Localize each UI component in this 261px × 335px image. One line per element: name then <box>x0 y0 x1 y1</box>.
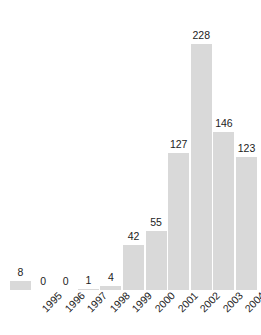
plot-area: 800144255127228146123 <box>0 0 261 290</box>
bar-1995 <box>10 281 31 290</box>
bar-group-1996: 0 <box>33 0 54 290</box>
x-axis-tick-labels: 1995199619971998199920002001200220032004… <box>0 290 261 335</box>
bar-group-1999: 4 <box>100 0 121 290</box>
tick-label-1995: 1995 <box>40 290 64 314</box>
bar-chart: 800144255127228146123 199519961997199819… <box>0 0 261 335</box>
bar-group-2004: 146 <box>213 0 234 290</box>
bar-value-label-1999: 4 <box>108 272 114 283</box>
bar-2003 <box>191 44 212 290</box>
bar-group-2002: 127 <box>168 0 189 290</box>
tick-label-2003: 2003 <box>221 290 245 314</box>
bar-group-1997: 0 <box>55 0 76 290</box>
bar-2000 <box>123 245 144 290</box>
bar-value-label-2004: 146 <box>215 118 233 129</box>
bar-group-1998: 1 <box>78 0 99 290</box>
bar-2002 <box>168 153 189 290</box>
bar-value-label-1997: 0 <box>63 276 69 287</box>
bar-value-label-1996: 0 <box>40 276 46 287</box>
tick-label-1999: 1999 <box>130 290 154 314</box>
bar-group-1995: 8 <box>10 0 31 290</box>
bar-2001 <box>146 231 167 290</box>
bar-value-label-1995: 8 <box>18 267 24 278</box>
bar-group-2005: 123 <box>236 0 257 290</box>
bar-value-label-2001: 55 <box>150 217 162 228</box>
bar-2005 <box>236 157 257 290</box>
bar-value-label-2002: 127 <box>170 139 188 150</box>
bar-group-2000: 42 <box>123 0 144 290</box>
tick-label-2002: 2002 <box>198 290 222 314</box>
bar-group-2003: 228 <box>191 0 212 290</box>
tick-label-2000: 2000 <box>153 290 177 314</box>
tick-label-1998: 1998 <box>108 290 132 314</box>
tick-label-1996: 1996 <box>62 290 86 314</box>
bar-value-label-2000: 42 <box>128 231 140 242</box>
bar-value-label-1998: 1 <box>85 275 91 286</box>
bar-2004 <box>213 132 234 290</box>
tick-label-2004: 2004 <box>243 290 261 314</box>
bar-value-label-2005: 123 <box>238 143 256 154</box>
bar-value-label-2003: 228 <box>193 30 211 41</box>
tick-label-2001: 2001 <box>175 290 199 314</box>
tick-label-1997: 1997 <box>85 290 109 314</box>
bar-group-2001: 55 <box>146 0 167 290</box>
